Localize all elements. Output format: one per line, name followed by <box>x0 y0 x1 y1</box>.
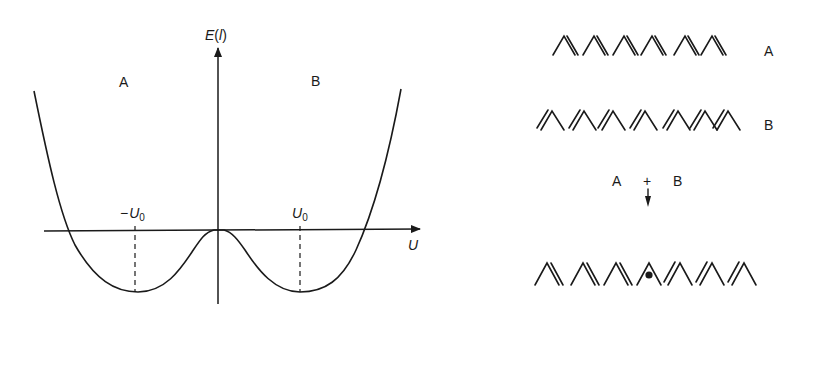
reaction-a-label: A <box>612 173 622 189</box>
reaction-down-arrow-icon <box>645 189 651 207</box>
y-axis-label: E(l) <box>205 27 227 43</box>
region-b-label: B <box>311 73 320 89</box>
x-axis-label: U <box>408 237 419 253</box>
soliton-chain <box>535 262 756 285</box>
chain-a-label: A <box>764 43 774 59</box>
chain-a <box>553 36 726 55</box>
soliton-dot-icon <box>645 271 652 278</box>
energy-plot: E(l) U A B −U0 U0 <box>34 27 420 304</box>
reaction-plus-sign: + <box>643 173 651 189</box>
chain-b <box>537 110 740 130</box>
soliton-defect <box>637 263 661 285</box>
chain-diagrams: A B A <box>535 36 774 285</box>
reaction-b-label: B <box>673 173 682 189</box>
double-well-diagram: E(l) U A B −U0 U0 <box>0 0 834 389</box>
chain-b-label: B <box>764 117 773 133</box>
u0-label: U0 <box>292 205 308 223</box>
minus-u0-label: −U0 <box>120 205 145 223</box>
region-a-label: A <box>119 74 129 90</box>
